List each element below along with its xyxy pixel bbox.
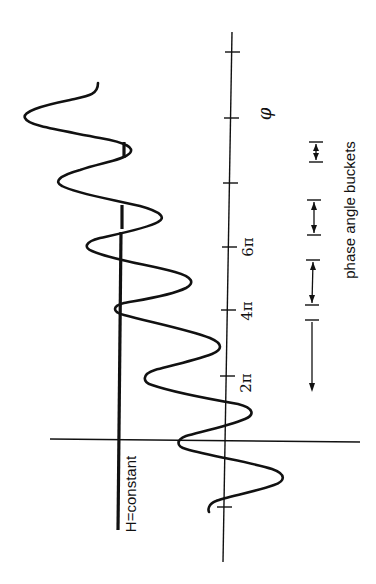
bucket-marker-open bbox=[305, 320, 319, 392]
axis-label-phi: φ bbox=[254, 107, 275, 120]
phase-space-diagram: 2π 4π 6π φ H=constant bbox=[0, 0, 376, 584]
tick-label-2pi: 2π bbox=[237, 373, 255, 393]
tick-label-4pi: 4π bbox=[238, 301, 256, 321]
tick-label-6pi: 6π bbox=[239, 237, 257, 257]
phi-axis bbox=[217, 32, 240, 562]
bucket-marker bbox=[305, 260, 320, 305]
h-axis bbox=[50, 439, 360, 442]
bucket-marker bbox=[309, 142, 323, 162]
buckets-label: phase angle buckets bbox=[341, 141, 358, 279]
trajectory-curve bbox=[25, 83, 283, 512]
bucket-marker bbox=[307, 200, 321, 235]
h-constant-label: H=constant bbox=[122, 455, 139, 532]
